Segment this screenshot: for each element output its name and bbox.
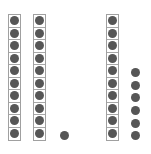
- ten-rod: [33, 14, 46, 141]
- one-unit-dot-icon: [131, 131, 140, 140]
- unit-dot-icon: [108, 29, 117, 38]
- rod-cell: [107, 53, 118, 66]
- rod-cell: [34, 15, 45, 28]
- one-unit-dot-icon: [131, 93, 140, 102]
- rod-cell: [34, 90, 45, 103]
- rod-cell: [34, 65, 45, 78]
- unit-dot-icon: [35, 116, 44, 125]
- ten-rod: [8, 14, 21, 141]
- unit-dot-icon: [10, 16, 19, 25]
- unit-dot-icon: [108, 16, 117, 25]
- unit-dot-icon: [35, 41, 44, 50]
- rod-cell: [9, 78, 20, 91]
- unit-dot-icon: [108, 54, 117, 63]
- rod-cell: [107, 15, 118, 28]
- unit-dot-icon: [35, 54, 44, 63]
- unit-dot-icon: [10, 79, 19, 88]
- ten-rod: [106, 14, 119, 141]
- unit-dot-icon: [108, 79, 117, 88]
- unit-dot-icon: [35, 66, 44, 75]
- unit-dot-icon: [108, 129, 117, 138]
- unit-dot-icon: [108, 41, 117, 50]
- rod-cell: [34, 78, 45, 91]
- rod-cell: [107, 128, 118, 140]
- unit-dot-icon: [10, 104, 19, 113]
- rod-cell: [107, 103, 118, 116]
- rod-cell: [9, 65, 20, 78]
- rod-cell: [34, 40, 45, 53]
- unit-dot-icon: [35, 79, 44, 88]
- rod-cell: [107, 65, 118, 78]
- one-unit-dot-icon: [131, 68, 140, 77]
- unit-dot-icon: [35, 104, 44, 113]
- unit-dot-icon: [10, 116, 19, 125]
- unit-dot-icon: [35, 129, 44, 138]
- rod-cell: [107, 78, 118, 91]
- rod-cell: [34, 28, 45, 41]
- rod-cell: [34, 53, 45, 66]
- unit-dot-icon: [10, 66, 19, 75]
- rod-cell: [107, 90, 118, 103]
- one-unit-dot-icon: [131, 106, 140, 115]
- rod-cell: [9, 128, 20, 140]
- unit-dot-icon: [108, 91, 117, 100]
- unit-dot-icon: [10, 29, 19, 38]
- rod-cell: [9, 28, 20, 41]
- rod-cell: [9, 90, 20, 103]
- unit-dot-icon: [10, 54, 19, 63]
- unit-dot-icon: [10, 41, 19, 50]
- rod-cell: [34, 115, 45, 128]
- rod-cell: [34, 103, 45, 116]
- unit-dot-icon: [108, 104, 117, 113]
- unit-dot-icon: [10, 91, 19, 100]
- rod-cell: [9, 53, 20, 66]
- rod-cell: [9, 40, 20, 53]
- unit-dot-icon: [35, 16, 44, 25]
- one-unit-dot-icon: [131, 81, 140, 90]
- rod-cell: [107, 115, 118, 128]
- rod-cell: [107, 28, 118, 41]
- unit-dot-icon: [108, 116, 117, 125]
- rod-cell: [9, 15, 20, 28]
- rod-cell: [107, 40, 118, 53]
- unit-dot-icon: [35, 29, 44, 38]
- unit-dot-icon: [108, 66, 117, 75]
- unit-dot-icon: [35, 91, 44, 100]
- rod-cell: [34, 128, 45, 140]
- unit-dot-icon: [10, 129, 19, 138]
- rod-cell: [9, 103, 20, 116]
- rod-cell: [9, 115, 20, 128]
- one-unit-dot-icon: [131, 119, 140, 128]
- one-unit-dot-icon: [60, 131, 69, 140]
